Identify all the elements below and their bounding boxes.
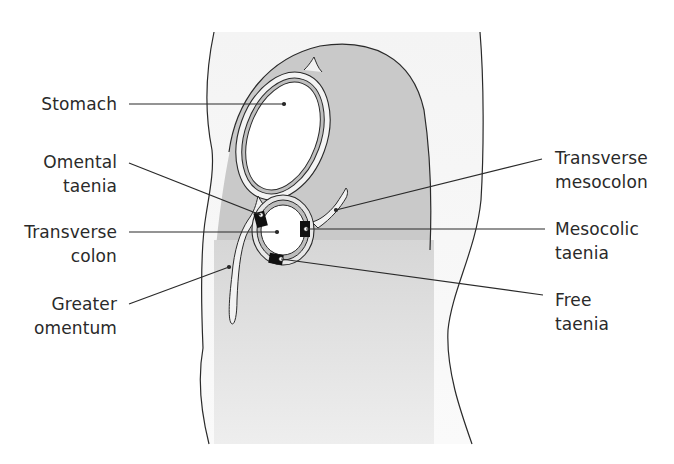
label-omental-taenia: Omental taenia	[43, 150, 117, 198]
label-mesocolic-taenia: Mesocolic taenia	[555, 217, 639, 265]
label-free-taenia: Free taenia	[555, 288, 609, 336]
label-greater-omentum: Greater omentum	[34, 292, 117, 340]
label-transverse-colon: Transverse colon	[24, 220, 117, 268]
label-transverse-mesocolon: Transverse mesocolon	[555, 146, 648, 194]
label-stomach: Stomach	[41, 92, 117, 116]
